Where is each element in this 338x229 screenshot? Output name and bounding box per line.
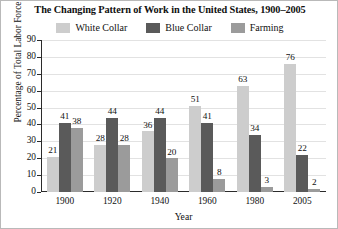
bar-value-label: 28 — [120, 134, 129, 143]
bar-value-label: 76 — [286, 53, 295, 62]
bar-column: 28 — [118, 40, 130, 192]
bar — [154, 118, 166, 192]
x-axis-tick-labels: 190019201940196019802005 — [41, 196, 326, 206]
bar — [201, 123, 213, 192]
bar — [94, 145, 106, 192]
legend-label: Farming — [250, 22, 284, 33]
bar-column: 20 — [166, 40, 178, 192]
x-axis-tick-label: 1980 — [235, 196, 275, 206]
bar-group: 364420 — [142, 40, 178, 192]
bar-column: 34 — [249, 40, 261, 192]
bar-column: 51 — [189, 40, 201, 192]
bar-value-label: 20 — [167, 148, 176, 157]
bar-column: 3 — [261, 40, 273, 192]
legend-label: White Collar — [75, 22, 127, 33]
y-axis-tick-label: 10 — [27, 169, 36, 179]
y-axis-tick-label: 40 — [27, 118, 36, 128]
bar-column: 36 — [142, 40, 154, 192]
bar-value-label: 51 — [191, 95, 200, 104]
bar-groups: 214138284428364420514186334376222 — [41, 40, 326, 192]
bar — [47, 157, 59, 192]
bar-column: 8 — [213, 40, 225, 192]
bar-group: 63343 — [237, 40, 273, 192]
bar — [189, 106, 201, 192]
bar-column: 76 — [284, 40, 296, 192]
y-axis-tick-label: 70 — [27, 68, 36, 78]
bar-column: 38 — [71, 40, 83, 192]
bar-column: 22 — [296, 40, 308, 192]
bar-group: 214138 — [47, 40, 83, 192]
y-axis-tick-label: 20 — [27, 152, 36, 162]
x-axis-tick-label: 1940 — [140, 196, 180, 206]
chart-legend: White CollarBlue CollarFarming — [1, 22, 338, 33]
bar-value-label: 2 — [312, 178, 317, 187]
x-axis-tick-label: 1960 — [187, 196, 227, 206]
bar-value-label: 3 — [264, 176, 269, 185]
legend-label: Blue Collar — [165, 22, 211, 33]
legend-swatch-icon — [231, 23, 245, 33]
y-axis-tick-label: 80 — [27, 51, 36, 61]
legend-item: White Collar — [56, 22, 127, 33]
y-axis-tick-label: 60 — [27, 85, 36, 95]
chart-title: The Changing Pattern of Work in the Unit… — [1, 4, 338, 15]
bar-value-label: 21 — [48, 146, 57, 155]
y-axis-tick-label: 0 — [31, 186, 36, 196]
x-axis-title: Year — [41, 211, 326, 222]
bar — [118, 145, 130, 192]
bar-value-label: 44 — [155, 107, 164, 116]
bar-column: 41 — [201, 40, 213, 192]
bar-column: 44 — [106, 40, 118, 192]
bar-group: 76222 — [284, 40, 320, 192]
x-axis-tick-label: 2005 — [282, 196, 322, 206]
bar — [284, 64, 296, 192]
x-axis-tick-label: 1920 — [92, 196, 132, 206]
y-axis-tick-label: 50 — [27, 102, 36, 112]
bar-value-label: 41 — [203, 112, 212, 121]
bar — [106, 118, 118, 192]
bar — [142, 131, 154, 192]
bar-column: 2 — [308, 40, 320, 192]
bar — [308, 189, 320, 192]
bar-group: 51418 — [189, 40, 225, 192]
y-axis-tick-label: 90 — [27, 34, 36, 44]
bar-group: 284428 — [94, 40, 130, 192]
bar-value-label: 41 — [60, 112, 69, 121]
bar-value-label: 34 — [250, 124, 259, 133]
legend-swatch-icon — [146, 23, 160, 33]
bar-column: 28 — [94, 40, 106, 192]
bar — [249, 135, 261, 192]
bar — [237, 86, 249, 192]
bar-value-label: 36 — [143, 121, 152, 130]
bar-value-label: 28 — [96, 134, 105, 143]
legend-swatch-icon — [56, 23, 70, 33]
bar — [166, 158, 178, 192]
legend-item: Farming — [231, 22, 284, 33]
y-axis-tick-label: 30 — [27, 135, 36, 145]
legend-item: Blue Collar — [146, 22, 211, 33]
bar-column: 41 — [59, 40, 71, 192]
bar-value-label: 22 — [298, 144, 307, 153]
bar-column: 44 — [154, 40, 166, 192]
bar-value-label: 8 — [217, 168, 222, 177]
bar-value-label: 44 — [108, 107, 117, 116]
bar-column: 21 — [47, 40, 59, 192]
y-axis-ticks: 0102030405060708090 — [1, 40, 41, 192]
chart-figure: The Changing Pattern of Work in the Unit… — [0, 0, 338, 229]
bar — [59, 123, 71, 192]
bar — [71, 128, 83, 192]
bar — [296, 155, 308, 192]
bar — [213, 179, 225, 193]
bar — [261, 187, 273, 192]
bar-column: 63 — [237, 40, 249, 192]
bar-value-label: 38 — [72, 117, 81, 126]
y-axis-tick-mark — [37, 192, 41, 193]
bar-value-label: 63 — [238, 75, 247, 84]
x-axis-tick-label: 1900 — [45, 196, 85, 206]
